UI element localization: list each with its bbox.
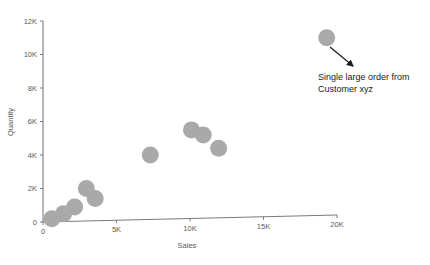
data-point[interactable] xyxy=(66,198,83,215)
annotation-layer: Single large order from Customer xyz xyxy=(318,47,410,94)
annotation-arrow xyxy=(330,47,353,66)
data-point[interactable] xyxy=(195,126,212,143)
y-axis-tick-label: 2K xyxy=(28,184,37,193)
x-axis-tick-label: 0 xyxy=(41,227,45,236)
x-axis-tick-label: 10K xyxy=(183,224,196,233)
x-axis-title: Sales xyxy=(178,241,197,250)
annotation-text-line-2: Customer xyz xyxy=(318,84,374,94)
y-axis-title: Quantity xyxy=(6,108,15,136)
y-axis-tick-label: 12K xyxy=(24,17,37,26)
data-point[interactable] xyxy=(210,140,227,157)
data-point[interactable] xyxy=(87,190,104,207)
plot-area: 02K4K6K8K10K12K 05K10K15K20K xyxy=(24,17,344,236)
y-axis-tick-label: 6K xyxy=(28,117,37,126)
data-point[interactable] xyxy=(318,29,335,46)
y-axis-ticks: 02K4K6K8K10K12K xyxy=(24,17,43,227)
data-point-series xyxy=(43,29,335,227)
x-axis-tick-label: 15K xyxy=(257,222,270,231)
y-axis-tick-label: 8K xyxy=(28,84,37,93)
scatter-chart: 02K4K6K8K10K12K 05K10K15K20K Quantity Sa… xyxy=(0,0,430,265)
x-axis-tick-label: 5K xyxy=(112,225,121,234)
chart-canvas: 02K4K6K8K10K12K 05K10K15K20K Quantity Sa… xyxy=(0,0,430,265)
data-point[interactable] xyxy=(142,147,159,164)
x-axis-tick-label: 20K xyxy=(330,220,343,229)
annotation-text-line-1: Single large order from xyxy=(318,72,410,82)
y-axis-tick-label: 10K xyxy=(24,50,37,59)
y-axis-tick-label: 4K xyxy=(28,151,37,160)
y-axis-tick-label: 0 xyxy=(33,218,37,227)
